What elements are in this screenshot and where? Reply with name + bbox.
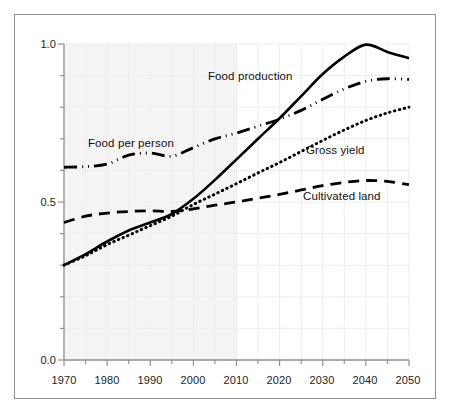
chart-plot-area — [0, 0, 450, 413]
x-tick-label-2040: 2040 — [343, 374, 387, 386]
x-tick-label-2050: 2050 — [386, 374, 430, 386]
x-tick-label-1980: 1980 — [85, 374, 129, 386]
x-tick-label-1970: 1970 — [42, 374, 86, 386]
chart-figure: 1.0 0.5 0.0 1970 1980 1990 2000 2010 202… — [0, 0, 450, 413]
x-tick-label-2000: 2000 — [171, 374, 215, 386]
x-tick-label-1990: 1990 — [128, 374, 172, 386]
series-label-gross-yield: Gross yield — [306, 144, 365, 156]
x-tick-label-2010: 2010 — [214, 374, 258, 386]
series-label-cultivated-land: Cultivated land — [303, 190, 381, 202]
y-tick-label-2: 0.5 — [22, 196, 56, 208]
y-tick-label-3: 0.0 — [22, 354, 56, 366]
y-tick-label-1: 1.0 — [22, 38, 56, 50]
series-label-food-production: Food production — [208, 70, 293, 82]
x-tick-label-2020: 2020 — [257, 374, 301, 386]
x-tick-label-2030: 2030 — [300, 374, 344, 386]
series-label-food-per-person: Food per person — [88, 137, 174, 149]
